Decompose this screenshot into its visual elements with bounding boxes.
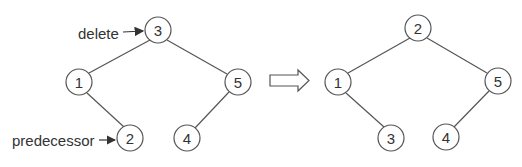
right-tree-node-1: 1 <box>325 69 351 95</box>
node-label: 2 <box>126 130 134 147</box>
node-label: 1 <box>334 74 342 91</box>
node-label: 1 <box>75 74 83 91</box>
delete-label: delete <box>78 25 119 42</box>
transition-arrow-icon <box>270 70 309 91</box>
left-tree-node-4: 4 <box>174 125 200 151</box>
node-label: 5 <box>234 74 242 91</box>
right-tree-node-5: 5 <box>485 68 511 94</box>
node-label: 4 <box>183 130 191 147</box>
edge-2-1 <box>348 38 410 73</box>
edge-3-5 <box>167 40 227 74</box>
edge-5-4 <box>454 91 489 127</box>
right-tree-node-3: 3 <box>378 125 404 151</box>
left-tree-node-5: 5 <box>225 69 251 95</box>
left-tree-node-3: 3 <box>145 17 171 43</box>
node-label: 2 <box>414 20 422 37</box>
edge-3-1 <box>89 40 150 73</box>
node-label: 4 <box>442 129 450 146</box>
edge-2-5 <box>427 38 487 73</box>
right-tree-node-4: 4 <box>433 124 459 150</box>
right-tree-node-2: 2 <box>405 15 431 41</box>
left-tree-node-2: 2 <box>117 125 143 151</box>
right-tree-edges <box>346 38 489 127</box>
left-tree-node-1: 1 <box>66 69 92 95</box>
edge-1-2 <box>87 93 124 127</box>
delete-arrow-icon <box>123 31 143 32</box>
predecessor-label: predecessor <box>12 132 95 149</box>
node-label: 5 <box>494 73 502 90</box>
edge-1-3 <box>346 93 384 127</box>
edge-5-4 <box>195 92 229 128</box>
node-label: 3 <box>387 130 395 147</box>
left-tree-edges <box>87 40 229 128</box>
node-label: 3 <box>154 22 162 39</box>
bst-delete-diagram: 3 1 5 2 4 delete predecessor 2 1 5 <box>0 0 522 167</box>
